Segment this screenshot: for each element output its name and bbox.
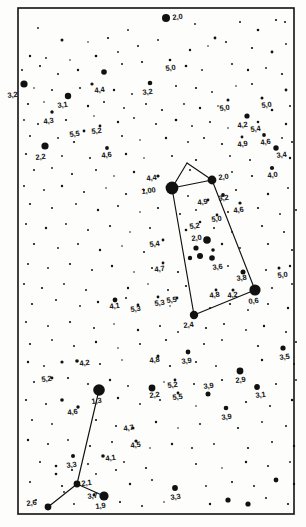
labelled-star-marker[interactable] [45,504,52,511]
labelled-star-marker[interactable] [169,59,172,62]
labelled-star-marker[interactable] [157,355,160,358]
labelled-star-marker[interactable] [257,121,260,124]
labelled-star-marker[interactable] [113,298,118,303]
labelled-star-marker[interactable] [186,350,191,355]
labelled-star-marker[interactable] [273,145,278,150]
labelled-star-marker[interactable] [206,392,211,397]
star-marker [215,365,217,367]
star-marker [285,89,288,92]
labelled-star-marker[interactable] [101,454,105,458]
labelled-star-marker[interactable] [75,359,79,363]
star-marker [171,443,173,445]
labelled-star-marker[interactable] [157,296,160,299]
labelled-star-marker[interactable] [270,166,274,170]
star-marker [291,249,293,251]
labelled-star-marker[interactable] [162,239,165,242]
star-marker [189,169,191,171]
labelled-star-marker[interactable] [20,80,27,87]
star-marker [51,339,53,341]
star-marker [87,383,89,385]
labelled-star-marker[interactable] [132,427,135,430]
labelled-star-marker[interactable] [208,176,217,185]
labelled-star-marker[interactable] [65,93,71,99]
star-marker [87,229,89,231]
labelled-star-marker[interactable] [249,284,260,295]
sky-field [0,0,306,527]
labelled-star-marker[interactable] [76,405,79,408]
star-marker [285,425,287,427]
star-marker [195,463,197,465]
labelled-star-marker[interactable] [137,304,140,307]
star-marker [287,503,289,505]
labelled-star-marker[interactable] [203,236,211,244]
star-marker [265,269,267,271]
star-marker [109,225,111,227]
labelled-star-marker[interactable] [216,214,219,217]
star-marker [195,209,197,211]
labelled-star-marker[interactable] [190,311,198,319]
labelled-star-marker[interactable] [74,481,81,488]
star-marker [271,51,274,54]
labelled-star-marker[interactable] [93,384,105,396]
labelled-star-marker[interactable] [254,384,260,390]
star-marker [125,193,127,195]
labelled-star-marker[interactable] [134,439,137,442]
star-marker [29,343,31,345]
star-marker [223,323,225,325]
labelled-star-marker[interactable] [71,454,75,458]
labelled-star-marker[interactable] [238,201,241,204]
labelled-star-marker[interactable] [199,221,202,224]
labelled-star-marker[interactable] [241,136,244,139]
labelled-star-marker[interactable] [105,146,109,150]
labelled-star-marker[interactable] [99,491,108,500]
labelled-star-marker[interactable] [207,199,210,202]
labelled-star-marker[interactable] [41,142,48,149]
star-marker [127,29,129,31]
labelled-star-marker[interactable] [166,182,179,195]
labelled-star-marker[interactable] [174,379,177,382]
labelled-star-marker[interactable] [156,174,159,177]
labelled-star-marker[interactable] [261,97,264,100]
labelled-star-marker[interactable] [221,193,225,197]
star-marker [123,461,125,463]
star-marker [117,347,119,349]
labelled-star-marker[interactable] [244,113,249,118]
labelled-star-marker[interactable] [177,392,180,395]
labelled-star-marker[interactable] [162,14,170,22]
star-marker [245,329,247,331]
star-marker [137,329,139,331]
labelled-star-marker[interactable] [99,125,102,128]
star-marker [63,283,65,285]
labelled-star-marker[interactable] [241,270,246,275]
star-marker [221,143,223,145]
labelled-star-marker[interactable] [278,267,281,270]
labelled-star-marker[interactable] [224,406,229,411]
labelled-star-marker[interactable] [162,262,165,265]
labelled-star-marker[interactable] [237,368,244,375]
labelled-star-marker[interactable] [176,297,179,300]
star-marker [195,159,197,161]
star-marker [95,473,97,475]
star-marker [45,57,47,59]
star-marker [293,363,295,365]
labelled-star-marker[interactable] [50,110,53,113]
labelled-star-marker[interactable] [51,377,54,380]
labelled-star-marker[interactable] [209,255,215,261]
labelled-star-marker[interactable] [93,494,96,497]
labelled-star-marker[interactable] [83,130,86,133]
labelled-star-marker[interactable] [280,345,285,350]
labelled-star-marker[interactable] [90,82,93,85]
labelled-star-marker[interactable] [148,81,153,86]
star-marker [203,137,205,139]
star-marker [231,63,233,65]
star-marker [111,441,113,443]
labelled-star-marker[interactable] [149,385,156,392]
star-marker [149,227,151,229]
labelled-star-marker[interactable] [262,133,266,137]
labelled-star-marker[interactable] [172,485,178,491]
star-marker [247,69,249,71]
labelled-star-marker[interactable] [227,99,230,102]
labelled-star-marker[interactable] [232,289,235,292]
labelled-star-marker[interactable] [215,289,218,292]
star-marker [151,267,153,269]
